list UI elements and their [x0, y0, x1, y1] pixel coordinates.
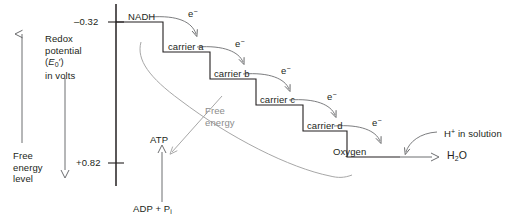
redox-axis-title-line1: Redox [45, 33, 73, 44]
adp-text: ADP + P [133, 203, 170, 214]
redox-axis [108, 4, 124, 186]
step-label-oxygen: Oxygen [333, 146, 366, 158]
electron-label-5: e− [372, 115, 382, 128]
step-label-carrier-b: carrier b [214, 68, 250, 80]
free-energy-level-label: Free energy level [13, 150, 63, 185]
electron-transport-chain-figure: –0.32 +0.82 Redox potential (E0′) in vol… [0, 0, 513, 224]
redox-axis-title-symbol: (E0′) [45, 56, 64, 67]
proton-rest: in solution [455, 128, 502, 139]
electron-label-4: e− [327, 89, 337, 102]
free-energy-level-line1: Free [13, 150, 33, 161]
free-energy-curve-line1: Free [205, 105, 225, 116]
step-label-carrier-c: carrier c [260, 94, 295, 106]
redox-axis-title: Redox potential (E0′) in volts [45, 33, 105, 82]
free-energy-level-line3: level [13, 173, 33, 184]
step-label-carrier-d: carrier d [307, 120, 343, 132]
electron-label-3: e− [281, 63, 291, 76]
electron-label-1: e− [188, 6, 198, 19]
step-label-carrier-a: carrier a [168, 41, 204, 53]
atp-synthesis-arrow [158, 145, 166, 202]
axis-tick-label-bottom: +0.82 [76, 157, 101, 169]
free-energy-level-line2: energy [13, 162, 43, 173]
redox-axis-title-line4: in volts [45, 70, 75, 81]
electron-label-2: e− [235, 36, 245, 49]
proton-h: H [444, 128, 451, 139]
redox-symbol-prime: ′ [59, 56, 61, 67]
adp-sub-i: i [170, 208, 172, 215]
redox-axis-title-line2: potential [45, 45, 82, 56]
proton-in-solution-label: H+ in solution [444, 126, 502, 139]
water-output-arrow [400, 153, 439, 161]
atp-label: ATP [150, 134, 168, 146]
water-o: O [459, 149, 467, 161]
proton-input-arrow [406, 132, 437, 152]
step-label-nadh: NADH [128, 11, 155, 23]
electron-transfer-arrows [150, 17, 380, 141]
adp-phosphate-label: ADP + Pi [133, 203, 172, 217]
free-energy-curve-label: Free energy [205, 105, 251, 128]
axis-tick-label-top: –0.32 [74, 16, 98, 28]
water-label: H2O [447, 150, 467, 164]
water-h: H [447, 149, 455, 161]
free-energy-curve-line2: energy [205, 117, 235, 128]
